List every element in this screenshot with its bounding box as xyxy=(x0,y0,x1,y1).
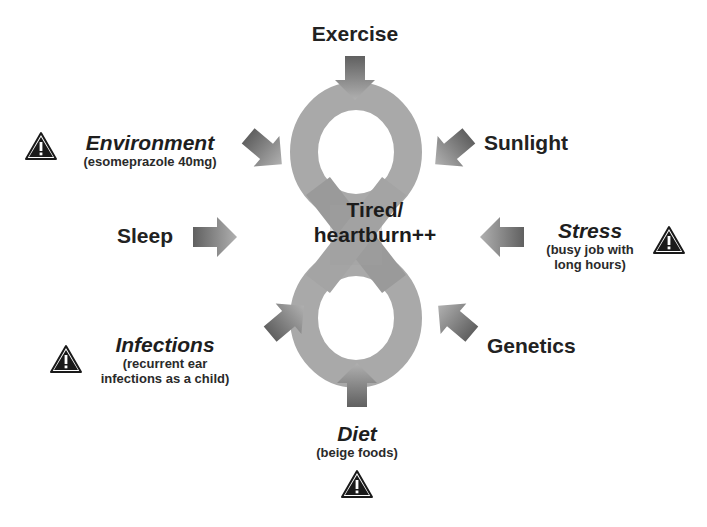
sunlight-title: Sunlight xyxy=(484,131,568,154)
center-line-2: heartburn++ xyxy=(300,222,450,247)
stress-title: Stress xyxy=(530,219,650,242)
factor-environment: Environment (esomeprazole 40mg) xyxy=(60,131,240,169)
stress-arrow-icon xyxy=(480,217,524,257)
diet-detail: (beige foods) xyxy=(297,445,417,460)
factor-stress: Stress (busy job with long hours) xyxy=(530,219,650,272)
infections-title: Infections xyxy=(80,333,250,356)
genetics-title: Genetics xyxy=(487,334,576,357)
factor-diet: Diet (beige foods) xyxy=(297,422,417,460)
sunlight-arrow-icon xyxy=(422,121,481,180)
infections-detail-line-1: (recurrent ear xyxy=(80,356,250,371)
sleep-arrow-icon xyxy=(193,217,237,257)
environment-detail: (esomeprazole 40mg) xyxy=(60,154,240,169)
factor-genetics: Genetics xyxy=(487,334,587,358)
infections-warning-triangle-icon xyxy=(49,344,83,374)
exercise-title: Exercise xyxy=(312,22,398,45)
stress-detail-line-2: long hours) xyxy=(530,257,650,272)
stress-warning-triangle-icon xyxy=(652,225,686,255)
genetics-arrow-icon xyxy=(425,291,484,350)
factor-sleep: Sleep xyxy=(110,224,180,248)
environment-arrow-icon xyxy=(235,121,294,180)
center-condition-label: Tired/ heartburn++ xyxy=(300,197,450,247)
center-line-1: Tired/ xyxy=(300,197,450,222)
diet-title: Diet xyxy=(297,422,417,445)
environment-warning-triangle-icon xyxy=(24,131,58,161)
stress-detail-line-1: (busy job with xyxy=(530,242,650,257)
infections-detail-line-2: infections as a child) xyxy=(80,371,250,386)
factor-exercise: Exercise xyxy=(305,22,405,46)
diet-warning-triangle-icon xyxy=(340,469,374,499)
sleep-title: Sleep xyxy=(117,224,173,247)
factor-infections: Infections (recurrent ear infections as … xyxy=(80,333,250,386)
environment-title: Environment xyxy=(60,131,240,154)
factor-sunlight: Sunlight xyxy=(484,131,584,155)
diagram-canvas: Tired/ heartburn++ Exercise Environment … xyxy=(0,0,707,527)
